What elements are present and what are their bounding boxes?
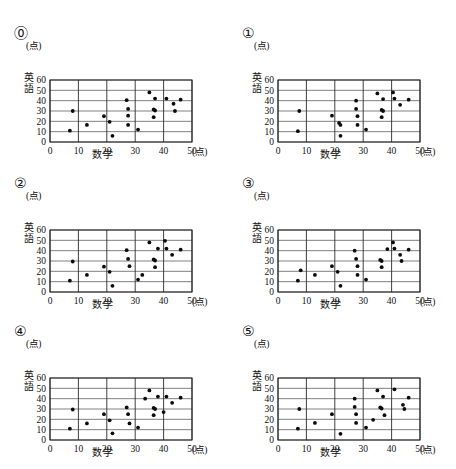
scatter-plot: 010203040506001020304050 bbox=[0, 318, 228, 468]
x-axis-tick-label: 50 bbox=[187, 146, 197, 156]
x-axis-tick-label: 50 bbox=[187, 444, 197, 454]
y-axis-tick-label: 40 bbox=[37, 394, 47, 404]
x-axis-tick-label: 10 bbox=[302, 444, 312, 454]
data-point bbox=[339, 284, 343, 288]
y-axis-tick-label: 10 bbox=[37, 277, 47, 287]
data-point bbox=[165, 395, 169, 399]
data-point bbox=[143, 397, 147, 401]
data-point bbox=[68, 427, 72, 431]
data-point bbox=[330, 412, 334, 416]
data-point bbox=[393, 97, 397, 101]
x-axis-tick-label: 10 bbox=[74, 444, 84, 454]
y-axis-tick-label: 60 bbox=[37, 225, 47, 235]
data-point bbox=[165, 247, 169, 251]
data-point bbox=[71, 109, 75, 113]
x-axis-tick-label: 50 bbox=[415, 146, 425, 156]
data-point bbox=[356, 273, 360, 277]
data-point bbox=[153, 265, 157, 269]
data-point bbox=[380, 259, 384, 263]
scatter-panel: ⑤(点)(点)英語数学010203040506001020304050 bbox=[228, 318, 456, 468]
data-point bbox=[354, 257, 358, 261]
data-point bbox=[407, 98, 411, 102]
data-point bbox=[364, 278, 368, 282]
data-point bbox=[85, 422, 89, 426]
y-axis-tick-label: 10 bbox=[37, 425, 47, 435]
x-axis-tick-label: 0 bbox=[48, 296, 53, 306]
y-axis-tick-label: 20 bbox=[265, 415, 275, 425]
data-point bbox=[299, 268, 303, 272]
data-point bbox=[170, 253, 174, 257]
data-point bbox=[381, 97, 385, 101]
data-point bbox=[296, 427, 300, 431]
data-point bbox=[371, 418, 375, 422]
data-point bbox=[336, 270, 340, 274]
y-axis-tick-label: 10 bbox=[37, 127, 47, 137]
data-point bbox=[126, 123, 130, 127]
data-point bbox=[111, 134, 115, 138]
data-point bbox=[125, 406, 129, 410]
data-point bbox=[111, 431, 115, 435]
data-point bbox=[68, 129, 72, 133]
data-point bbox=[85, 123, 89, 127]
data-point bbox=[354, 421, 358, 425]
data-point bbox=[71, 408, 75, 412]
data-point bbox=[380, 265, 384, 269]
y-axis-tick-label: 30 bbox=[265, 256, 275, 266]
y-axis-tick-label: 50 bbox=[265, 86, 275, 96]
data-point bbox=[102, 412, 106, 416]
data-point bbox=[126, 412, 130, 416]
data-point bbox=[297, 407, 301, 411]
x-axis-tick-label: 50 bbox=[415, 444, 425, 454]
data-point bbox=[407, 396, 411, 400]
x-axis-tick-label: 40 bbox=[387, 444, 397, 454]
data-point bbox=[173, 109, 177, 113]
y-axis-tick-label: 0 bbox=[269, 287, 274, 297]
data-point bbox=[156, 395, 160, 399]
y-axis-tick-label: 40 bbox=[265, 96, 275, 106]
y-axis-tick-label: 10 bbox=[265, 425, 275, 435]
data-point bbox=[339, 432, 343, 436]
data-point bbox=[108, 120, 112, 124]
data-point bbox=[356, 123, 360, 127]
data-point bbox=[398, 103, 402, 107]
data-point bbox=[353, 405, 357, 409]
x-axis-tick-label: 10 bbox=[302, 296, 312, 306]
x-axis-tick-label: 40 bbox=[159, 146, 169, 156]
scatter-plot: 010203040506001020304050 bbox=[228, 20, 456, 170]
data-point bbox=[353, 397, 357, 401]
y-axis-tick-label: 30 bbox=[37, 256, 47, 266]
y-axis-tick-label: 30 bbox=[37, 404, 47, 414]
data-point bbox=[179, 396, 183, 400]
data-point bbox=[162, 410, 166, 414]
data-point bbox=[111, 284, 115, 288]
data-point bbox=[356, 114, 360, 118]
x-axis-tick-label: 40 bbox=[159, 296, 169, 306]
scatter-plot: 010203040506001020304050 bbox=[228, 170, 456, 320]
data-point bbox=[108, 418, 112, 422]
scatter-plot: 010203040506001020304050 bbox=[228, 318, 456, 468]
data-point bbox=[156, 247, 160, 251]
x-axis-tick-label: 50 bbox=[187, 296, 197, 306]
data-point bbox=[296, 279, 300, 283]
x-axis-tick-label: 0 bbox=[276, 146, 281, 156]
data-point bbox=[393, 387, 397, 391]
y-axis-tick-label: 40 bbox=[37, 246, 47, 256]
x-axis-tick-label: 30 bbox=[130, 146, 140, 156]
y-axis-tick-label: 60 bbox=[265, 225, 275, 235]
data-point bbox=[128, 422, 132, 426]
data-point bbox=[153, 97, 157, 101]
x-axis-tick-label: 10 bbox=[74, 146, 84, 156]
y-axis-tick-label: 0 bbox=[41, 137, 46, 147]
data-point bbox=[330, 264, 334, 268]
data-point bbox=[402, 407, 406, 411]
x-axis-tick-label: 0 bbox=[48, 146, 53, 156]
x-axis-tick-label: 20 bbox=[102, 146, 112, 156]
y-axis-tick-label: 30 bbox=[37, 106, 47, 116]
data-point bbox=[165, 97, 169, 101]
y-axis-tick-label: 60 bbox=[265, 373, 275, 383]
data-point bbox=[153, 109, 157, 113]
data-point bbox=[108, 270, 112, 274]
data-point bbox=[391, 241, 395, 245]
x-axis-tick-label: 30 bbox=[130, 296, 140, 306]
worksheet-page: ⓪(点)(点)英語数学010203040506001020304050①(点)(… bbox=[0, 0, 456, 469]
